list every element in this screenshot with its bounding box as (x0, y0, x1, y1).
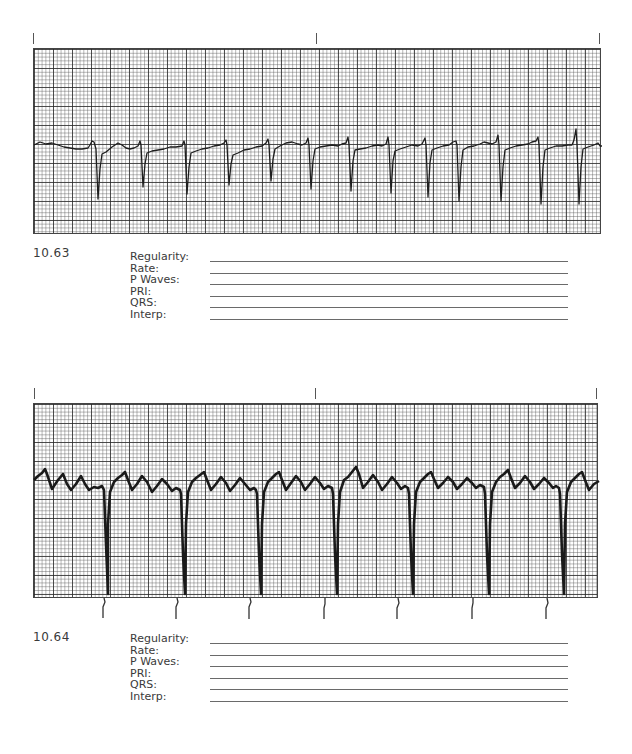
strip-10-64-tick-mid (315, 388, 316, 399)
field-interp: Interp: (130, 692, 570, 704)
field-regularity: Regularity: (130, 634, 570, 646)
answer-blank-pri[interactable] (210, 296, 568, 297)
answer-blank-rate[interactable] (210, 273, 568, 274)
caliper-mark (472, 598, 473, 619)
ecg-trace-10-64 (34, 404, 599, 599)
answer-blank-interp[interactable] (210, 701, 568, 702)
field-regularity: Regularity: (130, 252, 570, 264)
field-pri: PRI: (130, 669, 570, 681)
ecg-strip-10-64 (33, 403, 598, 598)
field-pri: PRI: (130, 287, 570, 299)
field-p-waves: P Waves: (130, 657, 570, 669)
answer-blank-p-waves[interactable] (210, 666, 568, 667)
ecg-strip-10-63 (33, 48, 601, 234)
answer-blank-pri[interactable] (210, 678, 568, 679)
strip-10-64-tick-left (34, 388, 35, 399)
answer-fields-10-64: Regularity: Rate: P Waves: PRI: QRS: Int… (130, 634, 570, 703)
figure-number-10-63: 10.63 (33, 246, 70, 260)
caliper-mark (546, 598, 548, 619)
strip-10-63-tick-right (599, 33, 600, 44)
field-interp: Interp: (130, 310, 570, 322)
field-qrs: QRS: (130, 680, 570, 692)
answer-blank-qrs[interactable] (210, 307, 568, 308)
strip-10-63-tick-left (33, 33, 34, 44)
caliper-mark (397, 598, 399, 619)
answer-blank-interp[interactable] (210, 319, 568, 320)
answer-blank-regularity[interactable] (210, 261, 568, 262)
field-label: Interp: (130, 690, 167, 703)
ecg-trace-10-63 (34, 49, 602, 235)
answer-fields-10-63: Regularity: Rate: P Waves: PRI: QRS: Int… (130, 252, 570, 321)
answer-blank-qrs[interactable] (210, 689, 568, 690)
field-rate: Rate: (130, 264, 570, 276)
figure-number-10-64: 10.64 (33, 630, 70, 644)
strip-10-64-tick-right (596, 388, 597, 399)
field-qrs: QRS: (130, 298, 570, 310)
caliper-mark (103, 598, 105, 618)
answer-blank-regularity[interactable] (210, 643, 568, 644)
caliper-mark (176, 598, 178, 619)
strip-10-63-tick-mid (316, 33, 317, 44)
caliper-marks-10-64 (0, 598, 632, 622)
answer-blank-p-waves[interactable] (210, 284, 568, 285)
answer-blank-rate[interactable] (210, 655, 568, 656)
field-p-waves: P Waves: (130, 275, 570, 287)
field-label: Interp: (130, 308, 167, 321)
caliper-mark (249, 598, 251, 619)
field-rate: Rate: (130, 646, 570, 658)
caliper-mark (324, 598, 325, 619)
